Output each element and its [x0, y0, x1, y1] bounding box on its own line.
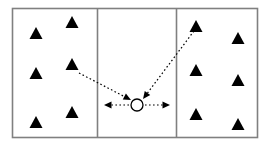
diagram-canvas [0, 0, 270, 147]
outer-rectangle [13, 9, 258, 138]
center-node [131, 99, 143, 111]
diagram-svg [0, 0, 270, 147]
